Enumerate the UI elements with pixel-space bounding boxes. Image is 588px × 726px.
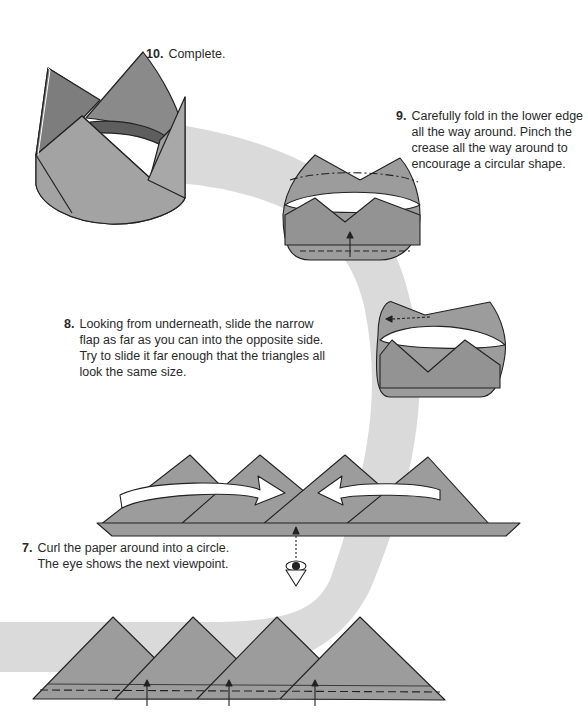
- step-line: Carefully fold in the lower edge: [411, 109, 583, 123]
- step-number: 10.: [146, 47, 163, 61]
- step-line: look the same size.: [79, 365, 186, 379]
- crown-complete-illustration: [36, 52, 185, 224]
- step-10-text: 10.Complete.: [146, 46, 225, 62]
- step-line: encourage a circular shape.: [411, 157, 565, 171]
- step-number: 9.: [396, 108, 406, 172]
- step-number: 7.: [22, 540, 32, 572]
- step-line: flap as far as you can into the opposite…: [79, 333, 323, 347]
- step-line: Looking from underneath, slide the narro…: [79, 317, 313, 331]
- step-9-text: 9. Carefully fold in the lower edge all …: [396, 108, 583, 172]
- step-number: 8.: [64, 316, 74, 380]
- step-description: Complete.: [168, 47, 225, 61]
- step-7-text: 7. Curl the paper around into a circle. …: [22, 540, 229, 572]
- step-line: Curl the paper around into a circle.: [37, 541, 229, 555]
- step-line: Try to slide it far enough that the tria…: [79, 349, 325, 363]
- step-line: all the way around. Pinch the: [411, 125, 572, 139]
- step8-illustration: [377, 302, 506, 397]
- step-line: The eye shows the next viewpoint.: [37, 557, 228, 571]
- step-8-text: 8. Looking from underneath, slide the na…: [64, 316, 325, 380]
- step-line: crease all the way around to: [411, 141, 567, 155]
